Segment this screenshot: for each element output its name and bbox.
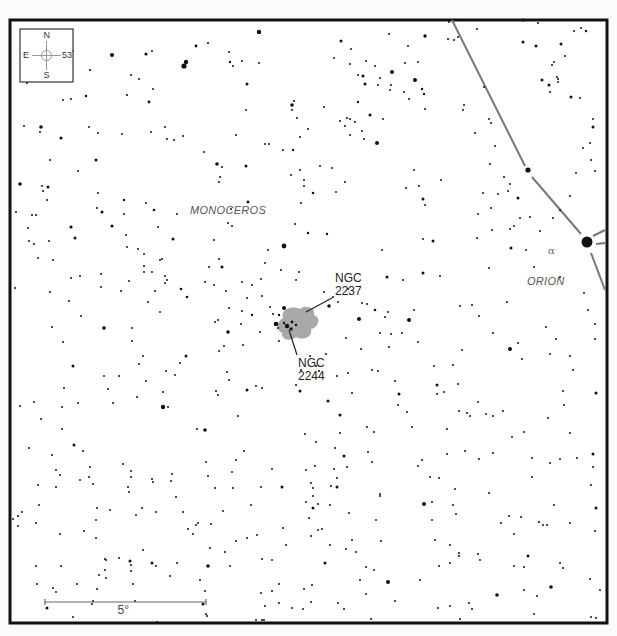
star <box>375 141 379 145</box>
star <box>490 122 492 124</box>
star <box>145 202 147 204</box>
star <box>91 603 93 605</box>
star <box>344 125 346 127</box>
star <box>495 593 499 597</box>
star <box>76 583 78 585</box>
star <box>482 192 484 194</box>
star <box>349 63 351 65</box>
star <box>261 295 263 297</box>
star <box>237 415 239 417</box>
star <box>257 30 261 34</box>
star <box>290 174 292 176</box>
star <box>408 98 410 100</box>
star <box>251 314 253 316</box>
star <box>62 341 64 343</box>
star <box>365 566 367 568</box>
star <box>21 511 23 513</box>
star <box>281 486 284 489</box>
star <box>355 551 357 553</box>
star <box>60 565 62 567</box>
star <box>165 370 167 372</box>
star <box>285 544 287 546</box>
star <box>278 340 280 342</box>
star <box>141 507 143 509</box>
star <box>235 134 237 136</box>
star <box>402 279 404 281</box>
star <box>572 369 574 371</box>
star <box>227 222 229 224</box>
star <box>508 515 510 517</box>
star <box>377 84 379 86</box>
star <box>241 60 243 62</box>
star <box>329 544 331 546</box>
star <box>12 518 14 520</box>
star <box>424 108 426 110</box>
star <box>224 551 226 553</box>
star <box>52 587 54 589</box>
star <box>129 560 132 563</box>
star <box>312 487 314 489</box>
star <box>337 301 339 303</box>
star <box>446 453 448 455</box>
star <box>390 70 394 74</box>
star <box>186 296 189 299</box>
star <box>142 355 144 357</box>
star <box>15 211 17 213</box>
star <box>551 64 553 66</box>
star <box>373 569 375 571</box>
star <box>271 559 273 561</box>
star <box>96 507 98 509</box>
star <box>379 77 381 79</box>
star <box>433 365 435 367</box>
star <box>424 204 426 206</box>
star <box>533 613 535 615</box>
star <box>520 516 522 518</box>
star <box>161 258 163 260</box>
star <box>179 362 181 364</box>
star <box>594 323 596 325</box>
star <box>440 179 442 181</box>
star <box>523 431 525 433</box>
star <box>317 503 319 505</box>
star <box>556 76 558 78</box>
star <box>443 391 445 393</box>
star <box>159 259 161 261</box>
star <box>101 211 104 214</box>
star <box>405 187 407 189</box>
star <box>317 529 319 531</box>
star <box>305 501 307 503</box>
star <box>359 579 361 581</box>
star <box>291 109 293 111</box>
star <box>260 592 262 594</box>
star <box>559 458 561 460</box>
star <box>277 327 279 329</box>
ngc2237-label-line2: 2237 <box>335 285 362 298</box>
star <box>339 120 341 122</box>
star <box>491 229 493 231</box>
star <box>49 159 51 161</box>
star <box>72 616 74 618</box>
star <box>474 132 476 134</box>
star <box>557 81 559 83</box>
star <box>142 549 144 551</box>
star <box>533 266 535 268</box>
star <box>82 450 84 452</box>
star <box>437 607 439 609</box>
star <box>563 404 565 406</box>
star <box>485 413 487 415</box>
star <box>348 512 350 514</box>
star <box>549 353 551 355</box>
star <box>394 600 396 602</box>
star <box>138 363 140 365</box>
star <box>150 131 152 133</box>
star <box>453 39 455 41</box>
star <box>312 507 315 510</box>
star <box>256 534 258 536</box>
star <box>97 132 99 134</box>
compass-east-label: E <box>23 50 29 60</box>
star <box>488 118 490 120</box>
star <box>468 602 470 604</box>
star <box>185 355 188 358</box>
star <box>162 391 164 393</box>
star <box>310 601 312 603</box>
